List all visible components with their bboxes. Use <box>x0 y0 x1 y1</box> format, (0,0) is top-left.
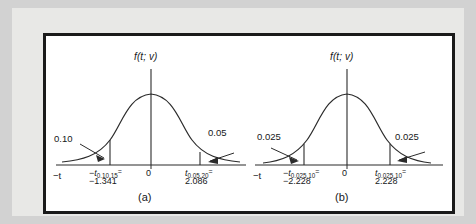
critical-subscript-left-a: 0.10,15 <box>97 172 118 179</box>
tail-area-label-left-a: 0.10 <box>54 134 73 144</box>
arrowhead-right-tail-a <box>208 157 218 164</box>
tail-area-label-right-b: 0.025 <box>395 132 419 142</box>
negative-t-axis-label-b: −t <box>253 171 261 181</box>
tail-area-label-left-b: 0.025 <box>257 132 281 142</box>
critical-value-label-left-a: −t0.10,15= −1.341 <box>89 169 122 187</box>
panel-caption-a: (a) <box>138 191 151 203</box>
panel-b: f(t; v) 0.025 0.025 −t −t0.025,10= −2.22… <box>247 36 450 211</box>
critical-subscript-right-b: 0.025,10 <box>378 172 403 179</box>
critical-value-label-left-b: −t0.025,10= −2.228 <box>283 169 319 187</box>
panel-a: f(t; v) 0.10 0.05 −t −t0.10,15= −1.341 0… <box>48 36 251 211</box>
critical-value-label-right-a: t0.05,20= 2.086 <box>185 169 213 187</box>
center-tick-label-b: 0 <box>342 169 347 178</box>
function-label-a: f(t; v) <box>134 52 157 63</box>
equals-mark-right-a: = <box>209 168 213 175</box>
critical-subscript-left-b: 0.025,10 <box>291 172 316 179</box>
negative-t-axis-label-a: −t <box>53 171 61 181</box>
equals-mark-right-b: = <box>402 168 406 175</box>
tail-area-label-right-a: 0.05 <box>208 128 227 138</box>
arrowhead-left-tail-b <box>289 157 299 164</box>
figure-root: f(t; v) 0.10 0.05 −t −t0.10,15= −1.341 0… <box>0 0 476 224</box>
arrowhead-right-tail-b <box>397 156 407 163</box>
equals-mark-left-a: = <box>118 168 122 175</box>
function-label-b: f(t; v) <box>330 52 353 63</box>
figure-paper-margin: f(t; v) 0.10 0.05 −t −t0.10,15= −1.341 0… <box>12 8 464 216</box>
center-tick-label-a: 0 <box>146 169 151 178</box>
equals-mark-left-b: = <box>315 168 319 175</box>
figure-frame: f(t; v) 0.10 0.05 −t −t0.10,15= −1.341 0… <box>43 33 455 214</box>
panel-caption-b: (b) <box>335 191 348 203</box>
arrow-left-tail-a <box>80 144 104 158</box>
critical-value-label-right-b: t0.025,10= 2.228 <box>375 169 406 187</box>
critical-subscript-right-a: 0.05,20 <box>188 172 209 179</box>
